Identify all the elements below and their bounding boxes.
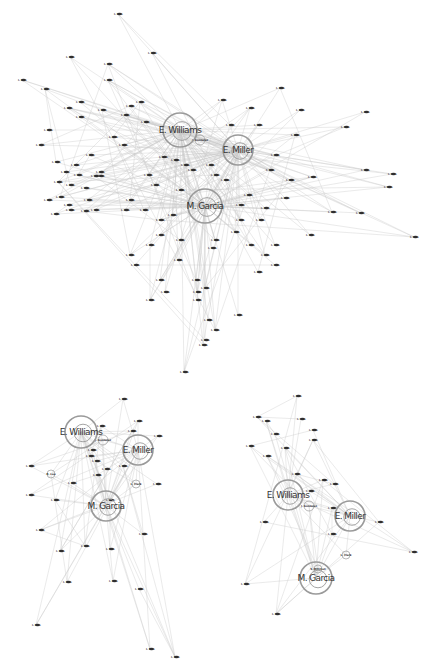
graph-node[interactable]: I. Ghn <box>146 648 155 651</box>
graph-node[interactable]: I. Ghn <box>84 199 93 202</box>
graph-node[interactable]: I. Ghn <box>293 395 302 398</box>
graph-node[interactable]: I. Ghn <box>276 87 285 90</box>
graph-node[interactable]: I. Ghn <box>66 184 75 187</box>
graph-node[interactable]: I. Ghn <box>26 494 35 497</box>
graph-node[interactable]: I. Ghn <box>126 105 135 108</box>
graph-node[interactable]: I. Ghn <box>119 398 128 401</box>
graph-node[interactable]: I. Ghn <box>86 455 95 458</box>
graph-node[interactable]: I. Ghn <box>234 314 243 317</box>
graph-node[interactable]: I. Ghn <box>131 264 140 267</box>
graph-node[interactable]: I. Ghn <box>32 624 41 627</box>
minor-hub-node[interactable]: R. Lee <box>46 470 55 478</box>
graph-node[interactable]: I. Ghn <box>121 209 130 212</box>
graph-node[interactable]: I. Ghn <box>134 420 143 423</box>
graph-node[interactable]: I. Ghn <box>156 234 165 237</box>
graph-node[interactable]: I. Ghn <box>176 239 185 242</box>
graph-node[interactable]: I. Ghn <box>193 299 202 302</box>
graph-node[interactable]: I. Ghn <box>254 271 263 274</box>
graph-node[interactable]: I. Ghn <box>156 219 165 222</box>
graph-node[interactable]: I. Ghn <box>181 164 190 167</box>
graph-node[interactable]: I. Ghn <box>199 344 208 347</box>
graph-node[interactable]: I. Ghn <box>93 474 102 477</box>
graph-node[interactable]: I. Ghn <box>236 204 245 207</box>
graph-node[interactable]: I. Ghn <box>409 551 418 554</box>
graph-node[interactable]: I. Ghn <box>81 210 90 213</box>
graph-node[interactable]: I. Ghn <box>211 174 220 177</box>
graph-node[interactable]: I. Ghn <box>271 433 280 436</box>
graph-node[interactable]: I. Ghn <box>262 420 271 423</box>
graph-node[interactable]: I. Ghn <box>244 194 253 197</box>
graph-node[interactable]: I. Ghn <box>76 116 85 119</box>
graph-node[interactable]: I. Ghn <box>98 109 107 112</box>
graph-node[interactable]: I. Ghn <box>263 455 272 458</box>
graph-node[interactable]: I. Ghn <box>260 521 269 524</box>
graph-node[interactable]: I. Ghn <box>154 435 163 438</box>
graph-node[interactable]: I. Ghn <box>384 186 393 189</box>
graph-node[interactable]: I. Ghn <box>319 479 328 482</box>
graph-node[interactable]: I. Ghn <box>297 418 306 421</box>
graph-node[interactable]: I. Ghn <box>81 187 90 190</box>
graph-node[interactable]: I. Ghn <box>204 319 213 322</box>
graph-node[interactable]: I. Ghn <box>140 209 149 212</box>
graph-node[interactable]: I. Ghn <box>153 483 162 486</box>
graph-node[interactable]: I. Ghn <box>18 79 27 82</box>
graph-node[interactable]: I. Ghn <box>114 13 123 16</box>
graph-node[interactable]: I. Ghn <box>211 329 220 332</box>
graph-node[interactable]: I. Ghn <box>121 114 130 117</box>
graph-node[interactable]: I. Ghn <box>246 244 255 247</box>
graph-node[interactable]: I. Ghn <box>254 124 263 127</box>
graph-node[interactable]: I. Ghn <box>308 176 317 179</box>
graph-node[interactable]: I. Ghn <box>96 175 105 178</box>
graph-node[interactable]: I. Ghn <box>226 124 235 127</box>
graph-node[interactable]: I. Ghn <box>206 164 215 167</box>
graph-node[interactable]: I. Ghn <box>64 204 73 207</box>
graph-node[interactable]: I. Ghn <box>88 449 97 452</box>
graph-node[interactable]: I. Ghn <box>161 291 170 294</box>
graph-node[interactable]: I. Ghn <box>236 219 245 222</box>
graph-node[interactable]: I. Ghn <box>192 279 201 282</box>
graph-node[interactable]: I. Ghn <box>361 169 370 172</box>
graph-node[interactable]: I. Ghn <box>193 291 202 294</box>
graph-node[interactable]: I. Ghn <box>281 197 290 200</box>
graph-node[interactable]: I. Ghn <box>188 169 197 172</box>
graph-node[interactable]: I. Ghn <box>292 473 301 476</box>
graph-node[interactable]: I. Ghn <box>139 533 148 536</box>
graph-node[interactable]: I. Ghn <box>341 126 350 129</box>
graph-node[interactable]: I. Ghn <box>56 550 65 553</box>
graph-node[interactable]: I. Ghn <box>261 254 270 257</box>
hub-node[interactable]: E. Miller <box>335 501 366 531</box>
graph-node[interactable]: I. Ghn <box>126 254 135 257</box>
graph-node[interactable]: I. Ghn <box>26 465 35 468</box>
graph-node[interactable]: I. Ghn <box>281 447 290 450</box>
graph-node[interactable]: I. Ghn <box>66 209 75 212</box>
graph-node[interactable]: I. Ghn <box>375 521 384 524</box>
graph-node[interactable]: I. Ghn <box>266 169 275 172</box>
graph-node[interactable]: I. Ghn <box>272 613 281 616</box>
graph-node[interactable]: I. Ghn <box>128 430 137 433</box>
graph-node[interactable]: I. Ghn <box>361 111 370 114</box>
graph-node[interactable]: I. Ghn <box>151 184 160 187</box>
graph-node[interactable]: I. Ghn <box>148 52 157 55</box>
graph-node[interactable]: I. Ghn <box>306 234 315 237</box>
graph-node[interactable]: I. Ghn <box>171 159 180 162</box>
graph-node[interactable]: I. Ghn <box>271 264 280 267</box>
graph-node[interactable]: I. Ghn <box>328 507 337 510</box>
graph-node[interactable]: I. Ghn <box>36 529 45 532</box>
graph-node[interactable]: I. Ghn <box>141 121 150 124</box>
graph-node[interactable]: I. Ghn <box>309 439 318 442</box>
graph-node[interactable]: I. Ghn <box>119 144 128 147</box>
graph-node[interactable]: I. Ghn <box>146 244 155 247</box>
graph-node[interactable]: I. Ghn <box>271 244 280 247</box>
graph-node[interactable]: I. Ghn <box>76 101 85 104</box>
graph-node[interactable]: I. Ghn <box>66 56 75 59</box>
graph-node[interactable]: I. Ghn <box>44 129 53 132</box>
graph-node[interactable]: I. Ghn <box>102 468 111 471</box>
graph-node[interactable]: I. Ghn <box>168 214 177 217</box>
graph-node[interactable]: I. Ghn <box>71 164 80 167</box>
graph-node[interactable]: I. Ghn <box>388 173 397 176</box>
graph-node[interactable]: I. Ghn <box>54 181 63 184</box>
graph-node[interactable]: I. Ghn <box>44 199 53 202</box>
graph-node[interactable]: I. Ghn <box>328 211 337 214</box>
graph-node[interactable]: I. Ghn <box>136 101 145 104</box>
graph-node[interactable]: I. Ghn <box>68 482 77 485</box>
